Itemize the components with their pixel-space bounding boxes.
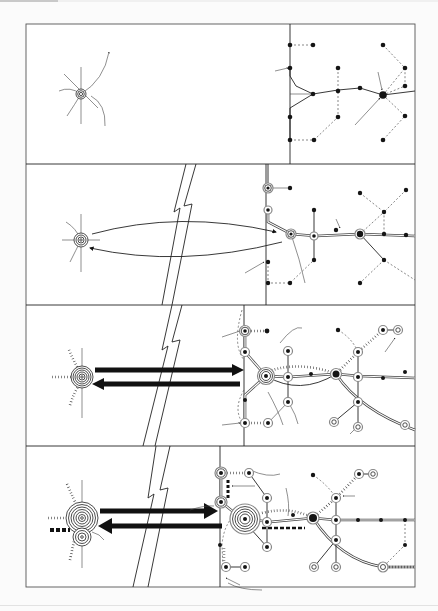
development-stages-diagram	[0, 0, 438, 611]
central-node-icon	[230, 504, 260, 534]
page-bottom-edge	[0, 605, 438, 606]
